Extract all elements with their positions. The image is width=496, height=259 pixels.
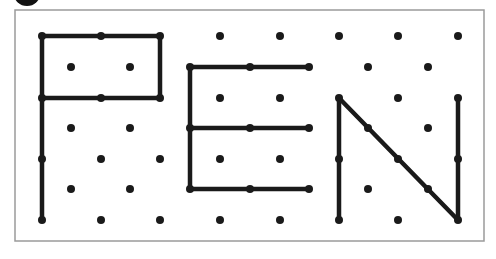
grid-dot	[126, 185, 134, 193]
grid-dot	[276, 155, 284, 163]
grid-dot	[246, 185, 254, 193]
grid-dot	[335, 32, 343, 40]
dot-grid-figure	[0, 0, 496, 259]
grid-dot	[216, 155, 224, 163]
grid-dot	[38, 94, 46, 102]
grid-dot	[276, 216, 284, 224]
grid-dot	[394, 155, 402, 163]
grid-dot	[305, 185, 313, 193]
grid-dot	[156, 32, 164, 40]
grid-dot	[454, 32, 462, 40]
grid-dot	[364, 63, 372, 71]
grid-dot	[97, 155, 105, 163]
grid-dot	[97, 32, 105, 40]
grid-dot	[335, 155, 343, 163]
grid-dot	[276, 32, 284, 40]
grid-dot	[394, 32, 402, 40]
grid-dot	[364, 124, 372, 132]
grid-dot	[97, 94, 105, 102]
grid-dot	[305, 63, 313, 71]
grid-dot	[394, 94, 402, 102]
grid-dot	[454, 94, 462, 102]
grid-dot	[216, 32, 224, 40]
grid-dot	[186, 185, 194, 193]
grid-dot	[335, 94, 343, 102]
grid-dots	[38, 32, 462, 224]
grid-dot	[156, 216, 164, 224]
grid-dot	[186, 63, 194, 71]
grid-dot	[305, 124, 313, 132]
grid-dot	[156, 155, 164, 163]
grid-dot	[97, 216, 105, 224]
grid-dot	[394, 216, 402, 224]
grid-dot	[364, 185, 372, 193]
grid-dot	[38, 216, 46, 224]
grid-dot	[38, 32, 46, 40]
grid-dot	[38, 155, 46, 163]
grid-dot	[246, 63, 254, 71]
grid-dot	[156, 94, 164, 102]
grid-dot	[424, 185, 432, 193]
grid-dot	[454, 216, 462, 224]
grid-dot	[276, 94, 284, 102]
grid-dot	[67, 124, 75, 132]
grid-dot	[67, 185, 75, 193]
grid-dot	[424, 124, 432, 132]
grid-dot	[67, 63, 75, 71]
letter-p	[42, 36, 160, 220]
grid-dot	[126, 124, 134, 132]
grid-dot	[246, 124, 254, 132]
grid-dot	[424, 63, 432, 71]
grid-dot	[126, 63, 134, 71]
grid-dot	[186, 124, 194, 132]
grid-dot	[216, 216, 224, 224]
grid-dot	[335, 216, 343, 224]
grid-dot	[216, 94, 224, 102]
grid-dot	[454, 155, 462, 163]
